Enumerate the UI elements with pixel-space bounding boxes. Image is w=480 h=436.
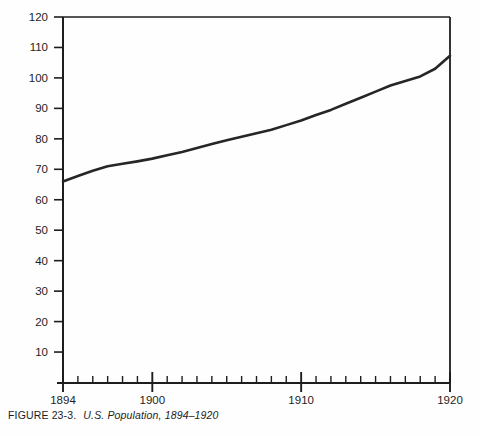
- figure-container: 102030405060708090100110120 189419001910…: [0, 0, 480, 436]
- y-tick-label: 40: [35, 255, 48, 267]
- y-tick-label: 30: [35, 285, 48, 297]
- y-tick-label: 90: [35, 102, 48, 114]
- figure-caption: FIGURE 23-3.U.S. Population, 1894–1920: [8, 409, 472, 421]
- x-tick-label: 1894: [50, 394, 76, 406]
- x-tick-label: 1920: [437, 394, 463, 406]
- y-tick-label: 100: [29, 72, 48, 84]
- y-tick-label: 120: [29, 11, 48, 23]
- population-line-chart: 102030405060708090100110120 189419001910…: [0, 0, 480, 436]
- figure-caption-title: U.S. Population, 1894–1920: [83, 409, 218, 421]
- y-tick-label: 110: [30, 41, 48, 53]
- x-tick-label: 1910: [288, 394, 314, 406]
- y-tick-label: 10: [35, 346, 48, 358]
- chart-background: [0, 0, 480, 436]
- y-tick-label: 70: [35, 163, 48, 175]
- y-tick-label: 60: [35, 194, 48, 206]
- y-tick-label: 80: [35, 133, 48, 145]
- x-tick-label: 1900: [140, 394, 166, 406]
- y-tick-label: 50: [35, 224, 48, 236]
- figure-caption-label: FIGURE 23-3.: [8, 409, 76, 421]
- y-tick-label: 20: [35, 316, 48, 328]
